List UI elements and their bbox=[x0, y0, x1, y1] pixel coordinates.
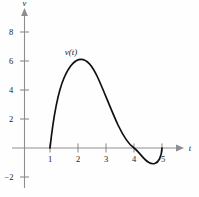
y-axis-arrow-icon bbox=[21, 8, 28, 16]
x-tick-label-2: 2 bbox=[76, 154, 80, 164]
y-tick-label-minus-2: −2 bbox=[4, 172, 13, 182]
curve-annotation-label: v(t) bbox=[65, 47, 78, 57]
plot-area: 8 6 4 2 −2 1 2 3 4 5 v t v(t) bbox=[0, 0, 199, 197]
x-tick-label-3: 3 bbox=[104, 154, 108, 164]
y-tick-label-4: 4 bbox=[9, 85, 14, 95]
x-tick-label-1: 1 bbox=[48, 154, 52, 164]
x-tick-label-4: 4 bbox=[132, 154, 137, 164]
x-tick-label-5: 5 bbox=[161, 154, 165, 164]
velocity-graph-figure: 8 6 4 2 −2 1 2 3 4 5 v t v(t) bbox=[0, 0, 199, 197]
x-axis-label: t bbox=[189, 143, 192, 153]
y-tick-label-2: 2 bbox=[9, 114, 13, 124]
y-tick-label-8: 8 bbox=[9, 27, 13, 37]
y-tick-label-6: 6 bbox=[9, 56, 13, 66]
y-axis-label: v bbox=[23, 0, 27, 8]
x-axis-arrow-icon bbox=[176, 145, 184, 152]
